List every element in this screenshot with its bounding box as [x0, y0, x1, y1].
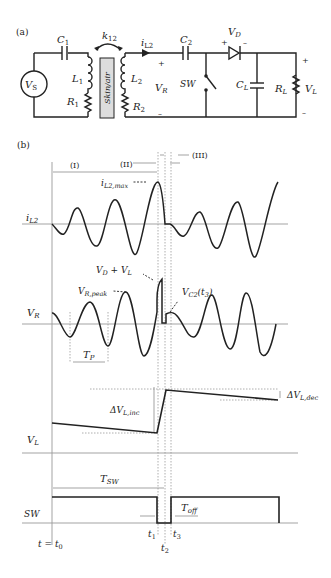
- il2-max-label: iL2,max: [101, 178, 128, 190]
- medium-label: Skin/air: [103, 71, 112, 104]
- tp-label: TP: [83, 349, 95, 362]
- r1-label: R1: [66, 96, 79, 109]
- l2-label: L2: [130, 73, 142, 86]
- vl-axis-label: VL: [27, 434, 39, 447]
- il2-label: iL2: [141, 37, 153, 50]
- vc2-label: VC2(t3): [182, 287, 213, 299]
- sw-waveform: [52, 497, 279, 523]
- phase-3-label: (III): [192, 151, 208, 160]
- vd-label: VD: [228, 26, 241, 39]
- sw-axis-label: SW: [24, 509, 40, 519]
- dvl-inc-label: ΔVL,inc: [109, 405, 140, 417]
- phase-1-label: (I): [70, 161, 79, 170]
- vd-minus: –: [243, 38, 247, 47]
- vl-minus: –: [302, 108, 306, 117]
- vr-pointers: [113, 182, 178, 312]
- c1-label: C1: [57, 34, 69, 47]
- t2-label: t2: [161, 543, 169, 555]
- vr-peak-label: VR,peak: [78, 286, 107, 298]
- vr-minus: –: [158, 109, 162, 118]
- cl-label: CL: [236, 79, 249, 92]
- t3-label: t3: [173, 529, 181, 541]
- k12-label: k12: [102, 30, 117, 43]
- il2-axis-label: iL2: [26, 212, 39, 225]
- c2-label: C2: [180, 34, 192, 47]
- vr-label: VR: [155, 82, 168, 95]
- rl-label: RL: [274, 83, 288, 96]
- t1-label: t1: [148, 529, 156, 541]
- figure-canvas: Skin/air (a) C1 VS L1 R1 k12 L2 R2 iL2 C…: [0, 0, 331, 578]
- circuit-diagram: [21, 44, 299, 117]
- t0-label: t = t0: [38, 539, 63, 551]
- time-markers: [70, 152, 278, 545]
- tsw-label: TSW: [100, 473, 119, 486]
- l1-label: L1: [71, 73, 83, 86]
- panel-a-label: (a): [16, 27, 28, 37]
- vl-plus: +: [302, 56, 309, 65]
- toff-label: Toff: [181, 502, 198, 515]
- vr-axis-label: VR: [27, 307, 40, 320]
- vd-vl-label: VD + VL: [96, 265, 132, 277]
- vd-plus: +: [221, 38, 228, 47]
- sw-label: SW: [180, 79, 196, 89]
- phase-2-label: (II): [120, 160, 133, 169]
- panel-b-label: (b): [17, 140, 30, 150]
- phase-arrows: [53, 155, 280, 516]
- vr-plus: +: [158, 59, 165, 68]
- vl-label: VL: [305, 83, 317, 96]
- r2-label: R2: [132, 101, 145, 114]
- dvl-dec-label: ΔVL,dec: [286, 390, 318, 402]
